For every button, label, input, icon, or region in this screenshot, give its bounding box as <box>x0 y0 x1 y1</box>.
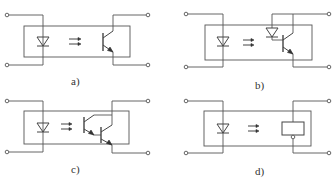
panel-label-b: b) <box>255 79 264 91</box>
terminal <box>146 99 150 103</box>
terminal <box>146 151 150 155</box>
ic-block-icon <box>282 122 304 139</box>
input-wire <box>9 15 43 65</box>
transistor-icon <box>283 33 293 54</box>
terminal <box>5 150 9 154</box>
terminal <box>327 99 331 103</box>
light-arrows-icon <box>248 125 259 133</box>
light-arrows-icon <box>69 38 81 46</box>
light-arrows-icon <box>243 39 254 47</box>
collector-wire <box>113 15 146 31</box>
panel-d <box>184 99 331 155</box>
panel-b <box>184 12 331 69</box>
terminal <box>327 65 331 69</box>
terminal <box>146 63 150 67</box>
emitter-wire <box>112 145 146 153</box>
panel-a <box>5 13 150 67</box>
terminal <box>327 12 331 16</box>
terminal <box>184 151 188 155</box>
photodiode-icon <box>266 14 283 40</box>
light-arrows-icon <box>61 123 72 131</box>
terminal <box>184 65 188 69</box>
terminal <box>184 12 188 16</box>
panel-label-a: a) <box>71 75 80 87</box>
input-wire <box>188 14 223 67</box>
terminal <box>5 63 9 67</box>
optocoupler-diagram <box>0 0 335 184</box>
panel-label-d: d) <box>255 165 264 177</box>
terminal <box>327 151 331 155</box>
emitter-wire <box>293 54 327 67</box>
phototransistor-icon <box>103 31 113 52</box>
panel-label-c: c) <box>71 163 80 175</box>
terminal <box>184 99 188 103</box>
terminal <box>5 13 9 17</box>
top-wire <box>293 101 327 122</box>
emitter-wire <box>113 52 146 65</box>
darlington-transistor-icon <box>84 101 112 145</box>
input-wire <box>188 101 223 153</box>
terminal <box>146 13 150 17</box>
panel-c <box>5 99 150 155</box>
terminal <box>5 99 9 103</box>
